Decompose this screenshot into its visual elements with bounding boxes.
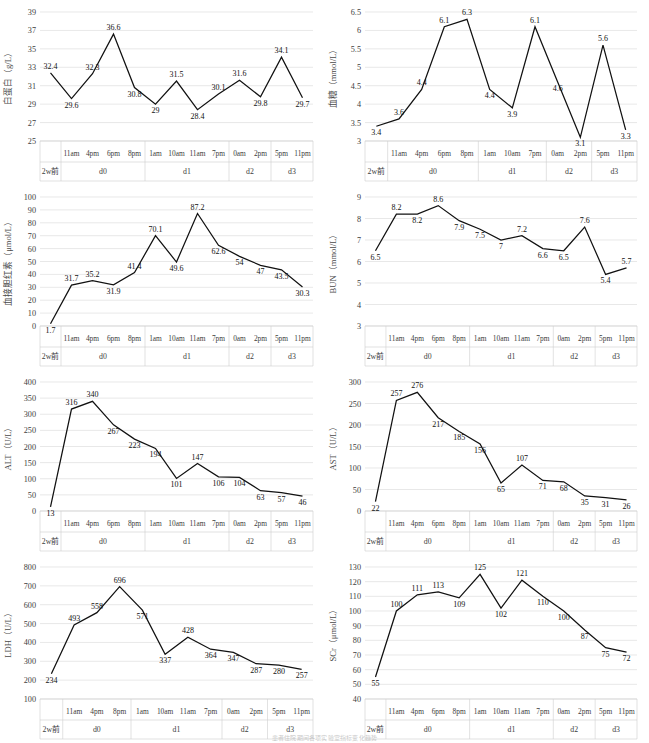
x-group-label: d0 <box>99 352 107 361</box>
y-axis-title: BUN（mmol/L） <box>328 230 338 294</box>
y-tick-label: 100 <box>349 464 361 473</box>
y-axis-title: LDH（U/L） <box>3 608 13 658</box>
x-time-label: 11pm <box>294 519 311 528</box>
y-tick-label: 25 <box>28 137 36 146</box>
x-group-label: d1 <box>183 537 191 546</box>
x-time-label: 4pm <box>86 334 99 343</box>
x-time-label: 1am <box>483 149 496 158</box>
y-axis-title: 白蛋白（g/L） <box>2 48 13 105</box>
data-series-line <box>51 401 303 506</box>
data-point-label: 8.6 <box>433 195 443 204</box>
data-point-label: 5.6 <box>598 34 608 43</box>
x-time-label: 1am <box>474 707 487 716</box>
y-tick-label: 100 <box>24 695 36 704</box>
x-time-label: 5pm <box>599 334 612 343</box>
data-point-label: 4.6 <box>553 84 563 93</box>
x-time-label: 11am <box>63 149 79 158</box>
x-time-label: 10am <box>157 707 174 716</box>
data-point-label: 26 <box>623 502 631 511</box>
x-time-label: 7pm <box>536 707 549 716</box>
x-time-label: 8pm <box>128 149 141 158</box>
data-point-label: 347 <box>227 654 239 663</box>
data-point-label: 35 <box>581 498 589 507</box>
x-time-label: 2pm <box>254 149 267 158</box>
y-tick-label: 50 <box>353 486 361 495</box>
data-point-label: 46 <box>299 498 307 507</box>
x-time-label: 5pm <box>599 519 612 528</box>
x-time-label: 6pm <box>432 334 445 343</box>
x-time-label: 11pm <box>294 149 311 158</box>
data-point-label: 31.6 <box>233 69 247 78</box>
data-point-label: 43.5 <box>275 272 289 281</box>
x-time-label: 5pm <box>275 519 288 528</box>
x-group-label: d3 <box>612 537 620 546</box>
x-group-label: 2w前 <box>42 351 60 361</box>
data-point-label: 65 <box>497 485 505 494</box>
chart-albumin: 2527293133353739白蛋白（g/L）2w前11am4pm6pm8pm… <box>0 0 325 185</box>
x-time-label: 4pm <box>411 707 424 716</box>
x-time-label: 8pm <box>453 334 466 343</box>
chart-panel-direct-bilirubin: 0102030405060708090100血接胆红素（μmol/L）2w前11… <box>0 185 325 370</box>
x-group-label: d2 <box>570 352 578 361</box>
x-time-label: 7pm <box>536 334 549 343</box>
data-point-label: 113 <box>432 581 444 590</box>
data-point-label: 558 <box>91 602 103 611</box>
x-time-label: 5pm <box>275 334 288 343</box>
x-time-label: 10am <box>493 519 510 528</box>
data-point-label: 3.6 <box>394 108 404 117</box>
y-tick-label: 5.5 <box>351 45 361 54</box>
x-time-label: 6pm <box>438 149 451 158</box>
chart-panel-bun: 3456789BUN（mmol/L）2w前11am4pm6pm8pmd01am1… <box>325 185 649 370</box>
chart-panel-albumin: 2527293133353739白蛋白（g/L）2w前11am4pm6pm8pm… <box>0 0 325 185</box>
data-point-label: 5.4 <box>601 276 611 285</box>
data-point-label: 29.6 <box>65 101 79 110</box>
data-point-label: 101 <box>171 480 183 489</box>
data-point-label: 696 <box>114 576 126 585</box>
x-time-label: 11pm <box>618 707 635 716</box>
data-point-label: 234 <box>45 676 57 685</box>
data-point-label: 49.6 <box>170 264 184 273</box>
y-tick-label: 0 <box>32 322 36 331</box>
data-point-label: 257 <box>390 389 402 398</box>
y-tick-label: 3.5 <box>351 119 361 128</box>
data-point-label: 111 <box>412 584 423 593</box>
y-tick-label: 50 <box>28 491 36 500</box>
data-point-label: 32.4 <box>44 62 58 71</box>
x-time-label: 11am <box>189 149 205 158</box>
x-time-label: 7pm <box>212 149 225 158</box>
x-time-label: 0am <box>233 519 246 528</box>
x-time-label: 5pm <box>275 149 288 158</box>
x-time-label: 0am <box>233 149 246 158</box>
y-tick-label: 40 <box>28 270 36 279</box>
y-tick-label: 150 <box>349 443 361 452</box>
y-tick-label: 200 <box>24 443 36 452</box>
data-point-label: 6.6 <box>538 251 548 260</box>
x-time-label: 8pm <box>453 519 466 528</box>
data-point-label: 31 <box>602 500 610 509</box>
x-group-label: 2w前 <box>42 166 60 176</box>
x-time-label: 11am <box>514 707 530 716</box>
chart-panel-blood-glucose: 33.544.555.566.5血糖（mmol/L）2w前11am4pm6pm8… <box>325 0 649 185</box>
data-point-label: 364 <box>205 651 217 660</box>
y-tick-label: 250 <box>349 400 361 409</box>
x-time-label: 11pm <box>293 707 310 716</box>
chart-panel-ldh: 100200300400500600700800LDH（U/L）2w前11am4… <box>0 555 325 743</box>
data-point-label: 125 <box>474 563 486 572</box>
x-time-label: 10am <box>168 149 185 158</box>
chart-alt: 050100150200250300350400ALT（U/L）2w前11am4… <box>0 370 325 555</box>
x-time-label: 2pm <box>254 334 267 343</box>
data-point-label: 337 <box>159 656 171 665</box>
data-point-label: 30.8 <box>128 90 142 99</box>
y-tick-label: 0 <box>32 507 36 516</box>
x-time-label: 1am <box>149 519 162 528</box>
data-point-label: 75 <box>602 650 610 659</box>
x-time-label: 0am <box>233 334 246 343</box>
data-point-label: 1.7 <box>46 326 56 335</box>
data-point-label: 7.6 <box>580 216 590 225</box>
data-point-label: 3.9 <box>507 110 517 119</box>
data-point-label: 6.1 <box>530 16 540 25</box>
x-time-label: 11am <box>388 334 404 343</box>
data-point-label: 31.9 <box>107 287 121 296</box>
y-tick-label: 0 <box>357 507 361 516</box>
data-point-label: 276 <box>411 381 423 390</box>
